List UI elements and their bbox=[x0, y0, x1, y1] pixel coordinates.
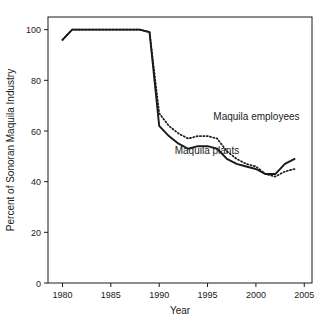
y-tick-label: 20 bbox=[31, 228, 41, 238]
y-tick-label: 40 bbox=[31, 177, 41, 187]
annotation-maquila-employees: Maquila employees bbox=[213, 111, 299, 122]
chart-container: 198019851990199520002005 020406080100 Ma… bbox=[0, 0, 326, 319]
x-tick-label: 1980 bbox=[52, 290, 72, 300]
x-tick-label: 1985 bbox=[101, 290, 121, 300]
y-axis-title: Percent of Sonoran Maquila Industry bbox=[5, 69, 16, 231]
x-tick-label: 2000 bbox=[246, 290, 266, 300]
x-tick-label: 2005 bbox=[294, 290, 314, 300]
x-axis-title: Year bbox=[170, 305, 191, 316]
x-tick-label: 1995 bbox=[198, 290, 218, 300]
y-tick-label: 60 bbox=[31, 127, 41, 137]
annotation-maquila-plants: Maquila plants bbox=[175, 145, 239, 156]
y-tick-label: 100 bbox=[26, 25, 41, 35]
line-chart: 198019851990199520002005 020406080100 Ma… bbox=[0, 0, 326, 319]
y-tick-label: 0 bbox=[36, 279, 41, 289]
chart-background bbox=[0, 0, 326, 319]
y-tick-label: 80 bbox=[31, 76, 41, 86]
x-tick-label: 1990 bbox=[149, 290, 169, 300]
